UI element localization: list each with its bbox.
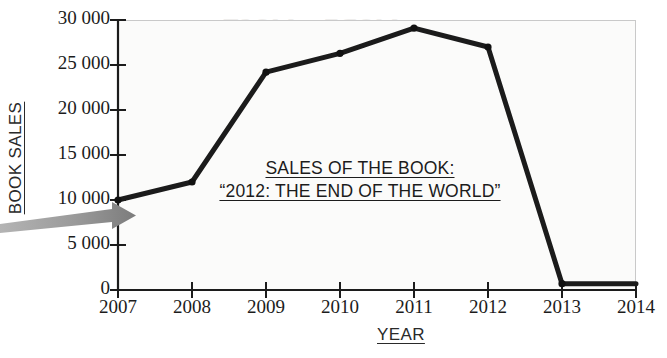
- book-sales-line-chart: MODE = MOST com MEDIAN = MIDDLE value ME…: [0, 0, 667, 358]
- x-tick-label: 2008: [173, 296, 211, 318]
- y-tick-label: 5 000: [67, 232, 110, 254]
- x-tick-label: 2013: [543, 296, 581, 318]
- sales-data-line: [118, 28, 636, 284]
- data-point-markers: [114, 25, 565, 288]
- x-tick-label: 2010: [321, 296, 359, 318]
- x-tick-label: 2011: [395, 296, 432, 318]
- y-tick-label: 15 000: [58, 142, 110, 164]
- x-tick-label: 2012: [469, 296, 507, 318]
- chart-annotation: SALES OF THE BOOK: “2012: THE END OF THE…: [210, 157, 510, 203]
- y-tick-label: 20 000: [58, 97, 110, 119]
- y-tick-label: 25 000: [58, 52, 110, 74]
- x-tick-label: 2007: [99, 296, 137, 318]
- y-tick-label: 30 000: [58, 7, 110, 29]
- x-axis-title: YEAR: [377, 325, 425, 345]
- y-tick-label: 10 000: [58, 187, 110, 209]
- annotation-line-1: SALES OF THE BOOK:: [210, 157, 510, 180]
- x-tick-label: 2014: [617, 296, 655, 318]
- y-axis-title: BOOK SALES: [6, 93, 26, 223]
- annotation-line-2: “2012: THE END OF THE WORLD”: [210, 180, 510, 203]
- x-tick-label: 2009: [247, 296, 285, 318]
